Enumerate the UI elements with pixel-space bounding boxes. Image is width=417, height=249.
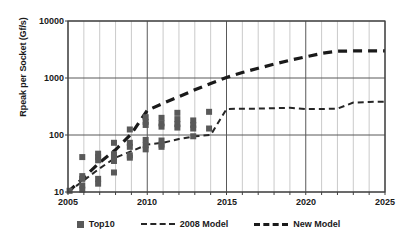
legend-label-top10: Top10 — [89, 219, 115, 229]
x-tick-2025: 2025 — [365, 197, 405, 207]
square-marker-icon — [77, 221, 84, 228]
legend-item-2008-model: 2008 Model — [141, 219, 229, 229]
y-tick-10000: 10000 — [30, 17, 64, 26]
series-scatter-top10 — [67, 109, 212, 194]
gridlines — [68, 21, 385, 192]
legend-label-new-model: New Model — [293, 219, 340, 229]
legend-label-2008-model: 2008 Model — [180, 219, 229, 229]
chart-figure: Rpeak per Socket (Gf/s) 10000 1000 100 1… — [0, 0, 417, 249]
chart-legend: Top10 2008 Model New Model — [0, 219, 417, 229]
dashed-line-thin-icon — [141, 223, 175, 225]
y-tick-100: 100 — [30, 131, 64, 140]
legend-item-top10: Top10 — [77, 219, 115, 229]
y-axis-ticks: 10000 1000 100 10 — [30, 0, 64, 249]
x-tick-2020: 2020 — [286, 197, 326, 207]
y-tick-1000: 1000 — [30, 74, 64, 83]
x-tick-2005: 2005 — [48, 197, 88, 207]
legend-item-new-model: New Model — [254, 219, 340, 229]
plot-frame — [65, 21, 385, 195]
dashed-line-thick-icon — [254, 223, 288, 226]
y-tick-10: 10 — [30, 188, 64, 197]
x-tick-2015: 2015 — [207, 197, 247, 207]
y-axis-label: Rpeak per Socket (Gf/s) — [18, 0, 28, 142]
x-tick-2010: 2010 — [127, 197, 167, 207]
